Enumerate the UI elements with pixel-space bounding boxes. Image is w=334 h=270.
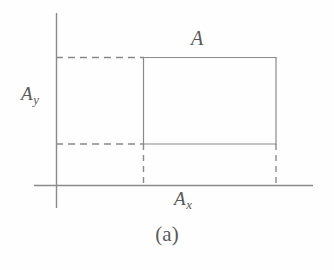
component-rectangle: [143, 57, 277, 145]
dashed-guides-group: [56, 58, 276, 187]
figure-caption: (a): [0, 224, 334, 245]
y-component-label: Ay: [21, 84, 39, 107]
vector-label-a-text: A: [191, 27, 203, 49]
x-component-label-base: A: [174, 188, 186, 209]
y-component-label-subscript: y: [33, 92, 39, 107]
figure-container: A Ay Ax (a): [0, 0, 334, 270]
y-component-label-base: A: [21, 83, 33, 104]
vector-label-a: A: [191, 28, 203, 48]
x-component-label-subscript: x: [186, 197, 192, 212]
x-component-label: Ax: [174, 189, 192, 212]
axes-group: [34, 13, 313, 208]
